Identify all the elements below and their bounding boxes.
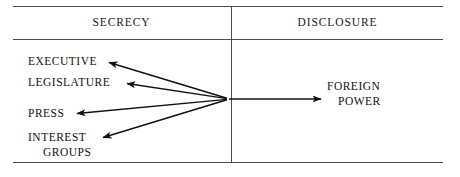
node-interest-groups-line2: GROUPS (43, 146, 91, 158)
arrow-hub-to-executive (109, 63, 227, 99)
node-legislature: LEGISLATURE (28, 76, 110, 88)
node-foreign-power-line2: POWER (338, 95, 381, 107)
node-executive: EXECUTIVE (28, 55, 97, 67)
node-press: PRESS (28, 107, 64, 119)
arrow-hub-to-legislature (127, 84, 227, 99)
arrow-hub-to-press (77, 99, 227, 113)
column-divider (231, 6, 232, 163)
diagram-canvas: SECRECY DISCLOSURE EXECUTIVE LEGISLATURE… (0, 0, 460, 177)
arrow-hub-to-interest-groups (103, 100, 227, 138)
node-foreign-power-line1: FOREIGN (327, 80, 380, 92)
column-header-secrecy: SECRECY (13, 16, 230, 28)
node-interest-groups-line1: INTEREST (28, 131, 86, 143)
table-top-border (13, 6, 443, 7)
table-header-border (13, 39, 443, 40)
column-header-disclosure: DISCLOSURE (232, 16, 443, 28)
table-bottom-border (13, 162, 443, 163)
